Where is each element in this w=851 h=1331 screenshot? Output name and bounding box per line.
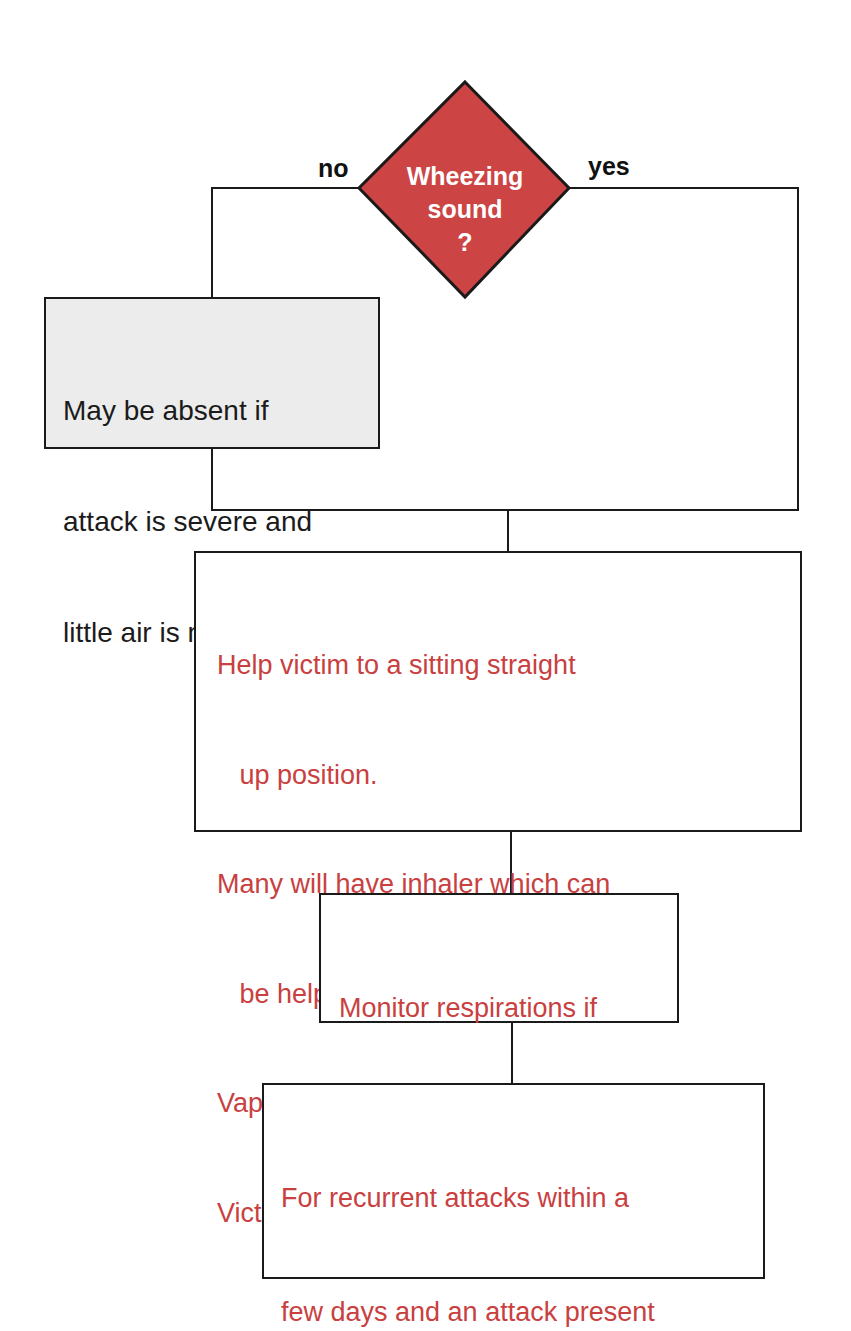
note-line-1: May be absent if [63,392,312,429]
step-3-line-2: few days and an attack present [281,1293,655,1331]
decision-line-1: Wheezing [360,160,570,193]
decision-text: Wheezing sound ? [360,160,570,259]
step-2-line-1: Monitor respirations if [339,989,597,1027]
note-line-2: attack is severe and [63,503,312,540]
branch-label-yes: yes [588,152,630,181]
step-1-line-2: up position. [217,757,685,794]
decision-line-3: ? [360,226,570,259]
decision-line-2: sound [360,193,570,226]
step-3-line-1: For recurrent attacks within a [281,1179,655,1217]
step-3-text: For recurrent attacks within a few days … [281,1103,655,1331]
branch-label-no: no [318,154,349,183]
step-1-line-1: Help victim to a sitting straight [217,647,685,684]
